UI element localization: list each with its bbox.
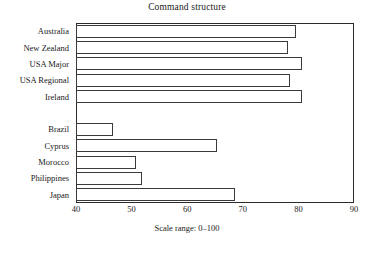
bar-new-zealand — [76, 41, 288, 54]
x-tick-60: 60 — [183, 204, 192, 215]
category-label-japan: Japan — [50, 190, 69, 200]
bar-philippines — [76, 172, 142, 185]
category-label-brazil: Brazil — [48, 124, 69, 134]
bar-ireland — [76, 90, 302, 103]
x-tick-90: 90 — [350, 204, 359, 215]
category-label-philippines: Philippines — [31, 173, 69, 183]
category-label-new-zealand: New Zealand — [23, 43, 69, 53]
bar-usa-major — [76, 57, 302, 70]
bar-chart: Command structure AustraliaNew ZealandUS… — [0, 0, 374, 257]
x-tick-50: 50 — [127, 204, 136, 215]
category-label-australia: Australia — [38, 26, 69, 36]
bar-morocco — [76, 156, 136, 169]
category-label-cyprus: Cyprus — [44, 141, 69, 151]
bars-container — [76, 23, 354, 203]
bar-cyprus — [76, 139, 217, 152]
category-label-morocco: Morocco — [38, 157, 69, 167]
scale-range-note: Scale range: 0–100 — [0, 223, 374, 233]
x-tick-40: 40 — [72, 204, 81, 215]
bar-usa-regional — [76, 74, 290, 87]
bar-australia — [76, 25, 296, 38]
x-tick-70: 70 — [239, 204, 248, 215]
category-label-ireland: Ireland — [45, 92, 69, 102]
chart-title: Command structure — [0, 2, 374, 12]
bar-brazil — [76, 123, 113, 136]
category-label-usa-regional: USA Regional — [20, 75, 69, 85]
bar-japan — [76, 188, 235, 201]
x-axis-tick-labels: 405060708090 — [0, 204, 374, 220]
x-tick-80: 80 — [294, 204, 303, 215]
category-label-usa-major: USA Major — [30, 59, 69, 69]
category-axis-labels: AustraliaNew ZealandUSA MajorUSA Regiona… — [0, 23, 73, 203]
